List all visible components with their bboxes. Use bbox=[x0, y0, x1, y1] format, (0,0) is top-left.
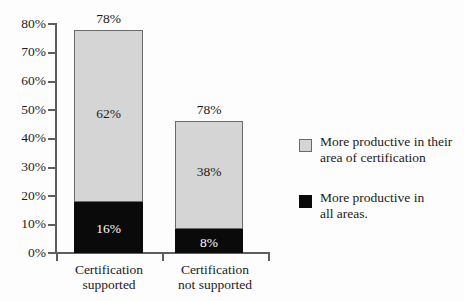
bar-segment-black-2: 8% bbox=[175, 229, 243, 253]
bar-total-label-1: 78% bbox=[74, 12, 143, 26]
legend-label-black-line2: all areas. bbox=[320, 206, 368, 221]
legend-label-gray-line2: area of certification bbox=[320, 150, 426, 165]
y-axis-tick-label-50: 50% bbox=[0, 103, 46, 117]
legend-label-black-line1: More productive in bbox=[320, 190, 424, 205]
legend-label-black: More productive in all areas. bbox=[320, 190, 464, 221]
bar-segment-label-gray-2: 38% bbox=[176, 165, 242, 179]
bar-segment-black-1: 16% bbox=[74, 202, 143, 253]
bar-segment-label-gray-1: 62% bbox=[75, 107, 142, 121]
chart-legend: More productive in their area of certifi… bbox=[299, 134, 464, 246]
bar-total-label-2: 78% bbox=[175, 103, 243, 117]
y-axis-tick-label-60: 60% bbox=[0, 74, 46, 88]
x-axis-category-label-1: Certification supported bbox=[56, 262, 162, 292]
x-axis-category-label-1-line2: supported bbox=[56, 277, 162, 292]
y-axis-tick-label-20: 20% bbox=[0, 189, 46, 203]
x-axis-tick-right bbox=[268, 253, 270, 261]
y-axis-tick-label-40: 40% bbox=[0, 131, 46, 145]
x-axis-category-label-1-line1: Certification bbox=[56, 262, 162, 277]
bar-segment-label-black-1: 16% bbox=[75, 222, 142, 236]
bar-segment-gray-2: 38% bbox=[175, 121, 243, 229]
legend-swatch-black-icon bbox=[299, 195, 312, 208]
y-axis-tick-label-0: 0% bbox=[0, 246, 46, 260]
legend-swatch-gray-icon bbox=[299, 139, 312, 152]
legend-label-gray: More productive in their area of certifi… bbox=[320, 134, 464, 165]
y-axis-tick-label-30: 30% bbox=[0, 160, 46, 174]
x-axis-tick-left bbox=[56, 253, 58, 261]
bar-certification-supported: 78% 62% 16% bbox=[74, 30, 143, 253]
x-axis-category-label-2: Certification not supported bbox=[162, 262, 268, 292]
bar-segment-gray-1: 62% bbox=[74, 30, 143, 202]
y-axis-line bbox=[55, 23, 57, 254]
legend-entry-black: More productive in all areas. bbox=[299, 190, 464, 222]
y-axis-tick-label-70: 70% bbox=[0, 45, 46, 59]
bar-certification-not-supported: 78% 38% 8% bbox=[175, 121, 243, 253]
y-axis-tick-label-80: 80% bbox=[0, 17, 46, 31]
legend-label-gray-line1: More productive in their bbox=[320, 134, 452, 149]
x-axis-tick-middle bbox=[162, 253, 164, 261]
stacked-bar-chart: 80% 70% 60% 50% 40% 30% 20% 10% 0% 78% 6… bbox=[0, 0, 464, 301]
x-axis-category-label-2-line1: Certification bbox=[162, 262, 268, 277]
y-axis-tick-label-10: 10% bbox=[0, 217, 46, 231]
x-axis-category-label-2-line2: not supported bbox=[162, 277, 268, 292]
bar-segment-label-black-2: 8% bbox=[176, 236, 242, 250]
legend-entry-gray: More productive in their area of certifi… bbox=[299, 134, 464, 166]
